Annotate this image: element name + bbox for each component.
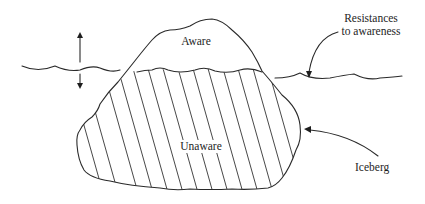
water-surface-left xyxy=(22,66,120,71)
water-surface-right xyxy=(275,73,402,79)
resistance-arrow-icon xyxy=(306,32,338,78)
iceberg-diagram: Aware Unaware Resistances to awareness I… xyxy=(0,0,425,204)
double-arrow-icon xyxy=(77,32,83,89)
iceberg-label: Iceberg xyxy=(355,161,389,174)
unaware-hatching xyxy=(60,40,305,200)
resistances-label: Resistances to awareness xyxy=(341,12,400,38)
resistances-label-line2: to awareness xyxy=(341,25,400,38)
iceberg-arrow-icon xyxy=(304,126,378,156)
resistances-label-line1: Resistances xyxy=(341,12,400,25)
unaware-label: Unaware xyxy=(178,140,224,153)
water-surface-iceberg xyxy=(137,68,262,72)
aware-label: Aware xyxy=(181,35,211,48)
